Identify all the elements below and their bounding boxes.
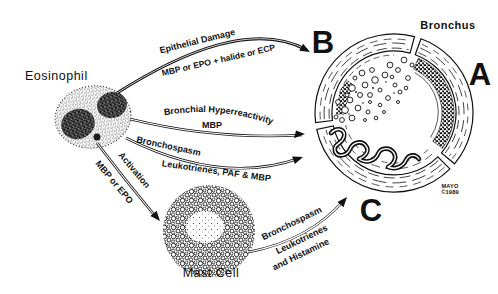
bronchus-section-c	[317, 125, 450, 192]
mast-cell-label: Mast Cell	[183, 266, 240, 280]
section-a-letter: A	[469, 57, 491, 92]
bronchus-cross-section	[315, 34, 473, 192]
arrowhead	[292, 156, 303, 164]
pathway-diagram-svg: Eosinophil Mast Cell Bronchus B A C Epit…	[0, 0, 498, 294]
arrowhead	[294, 131, 305, 139]
bronchus-label: Bronchus	[420, 19, 475, 31]
section-b-letter: B	[312, 25, 334, 60]
arrowhead	[299, 44, 310, 52]
eosinophil-label: Eosinophil	[25, 69, 88, 83]
mayo-credit-line2: ©1989	[441, 189, 459, 195]
figure-canvas: Eosinophil Mast Cell Bronchus B A C Epit…	[0, 0, 498, 294]
section-c-letter: C	[360, 193, 382, 228]
bronchospasm-eosinophil-mediators-label: Leukotrienes, PAF & MBP	[161, 158, 271, 183]
bronchospasm-eosinophil-label: Bronchospasm	[136, 134, 202, 157]
mast-cell	[163, 185, 255, 277]
bronchus-section-a	[414, 39, 474, 164]
bronchial-hyperreactivity-mediator-label: MBP	[202, 120, 222, 130]
eosinophil-cell	[51, 81, 135, 153]
